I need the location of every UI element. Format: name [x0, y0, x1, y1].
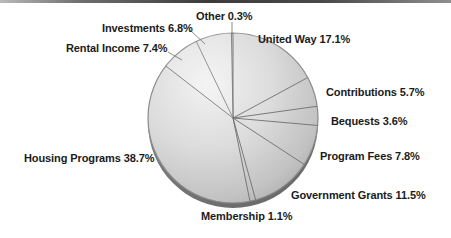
label-government-grants: Government Grants 11.5% — [291, 189, 426, 201]
label-rental-income: Rental Income 7.4% — [66, 42, 168, 54]
pie-chart-canvas: Other 0.3% Investments 6.8% Rental Incom… — [0, 0, 451, 238]
label-other: Other 0.3% — [196, 10, 252, 22]
label-investments: Investments 6.8% — [102, 22, 193, 34]
label-contributions: Contributions 5.7% — [326, 86, 424, 98]
pie-chart-figure: Other 0.3% Investments 6.8% Rental Incom… — [0, 0, 451, 238]
label-united-way: United Way 17.1% — [258, 33, 350, 45]
label-program-fees: Program Fees 7.8% — [320, 150, 420, 162]
label-membership: Membership 1.1% — [201, 210, 292, 222]
label-bequests: Bequests 3.6% — [331, 115, 407, 127]
label-housing-programs: Housing Programs 38.7% — [24, 152, 154, 164]
